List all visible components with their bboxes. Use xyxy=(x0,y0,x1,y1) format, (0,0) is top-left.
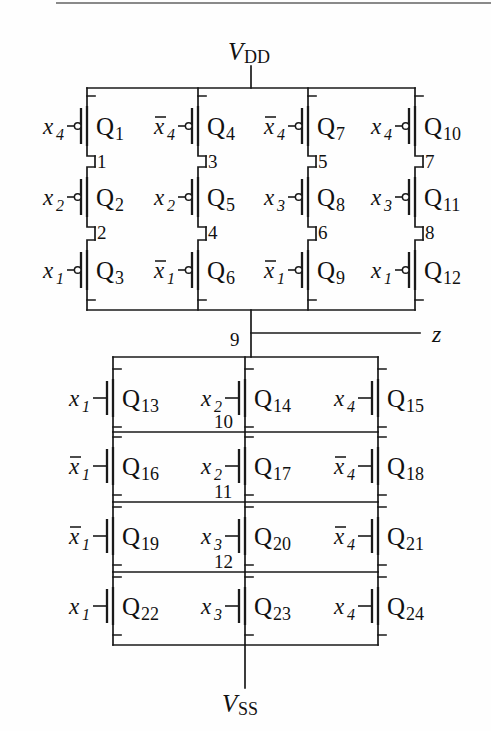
device-label-Q4: Q xyxy=(207,113,225,140)
transistor-11[interactable] xyxy=(395,167,423,227)
gate-signal-Q4: x4 xyxy=(153,114,175,143)
device-label-Q10: Q xyxy=(424,113,442,140)
signal-name: x xyxy=(200,454,212,479)
vss-label: VSS xyxy=(222,690,258,719)
signal-subscript: 1 xyxy=(384,270,392,287)
output-z-label: z xyxy=(431,321,442,347)
transistor-23[interactable] xyxy=(225,577,253,635)
signal-subscript: 4 xyxy=(167,126,175,143)
internal-node-7: 7 xyxy=(425,151,435,172)
signal-subscript: 4 xyxy=(384,126,392,143)
transistor-4[interactable] xyxy=(178,96,206,156)
channel-and-leads xyxy=(87,96,95,156)
channel-and-leads xyxy=(245,369,253,427)
pmos-bubble xyxy=(74,123,81,130)
device-label-Q16: Q xyxy=(122,453,140,480)
device-label-Q5: Q xyxy=(207,184,225,211)
channel-and-leads xyxy=(308,240,316,300)
channel-and-leads xyxy=(245,437,253,495)
gate-signal-Q1: x4 xyxy=(42,114,64,143)
gate-signal-Q11: x3 xyxy=(370,185,392,214)
gate-signal-Q18: x4 xyxy=(333,454,355,483)
device-index-Q20: 20 xyxy=(273,534,291,554)
transistor-18[interactable] xyxy=(358,437,386,495)
transistor-3[interactable] xyxy=(67,240,95,300)
device-index-Q19: 19 xyxy=(141,534,159,554)
transistor-22[interactable] xyxy=(93,577,121,635)
signal-subscript: 4 xyxy=(347,606,355,623)
transistor-5[interactable] xyxy=(178,167,206,227)
signal-name: x xyxy=(68,386,80,411)
transistor-16[interactable] xyxy=(93,437,121,495)
device-index-Q2: 2 xyxy=(115,195,124,215)
transistor-21[interactable] xyxy=(358,507,386,565)
device-label-Q8: Q xyxy=(317,184,335,211)
transistor-2[interactable] xyxy=(67,167,95,227)
signal-subscript: 1 xyxy=(277,270,285,287)
channel-and-leads xyxy=(378,437,386,495)
transistor-8[interactable] xyxy=(288,167,316,227)
gate-signal-Q19: x1 xyxy=(68,524,90,553)
internal-node-3: 3 xyxy=(208,151,218,172)
device-label-Q13: Q xyxy=(122,385,140,412)
internal-node-4: 4 xyxy=(208,222,218,243)
gate-signal-Q23: x3 xyxy=(200,594,222,623)
pmos-bubble xyxy=(402,267,409,274)
signal-name: x xyxy=(68,594,80,619)
device-label-Q24: Q xyxy=(387,593,405,620)
device-label-Q17: Q xyxy=(254,453,272,480)
transistor-10[interactable] xyxy=(395,96,423,156)
transistor-7[interactable] xyxy=(288,96,316,156)
signal-subscript: 1 xyxy=(82,606,90,623)
device-index-Q15: 15 xyxy=(406,396,424,416)
transistor-12[interactable] xyxy=(395,240,423,300)
signal-name: x xyxy=(200,524,212,549)
transistor-6[interactable] xyxy=(178,240,206,300)
device-index-Q3: 3 xyxy=(115,268,124,288)
gate-signal-Q10: x4 xyxy=(370,114,392,143)
signal-name: x xyxy=(153,185,165,210)
device-index-Q11: 11 xyxy=(443,195,460,215)
pmos-bubble xyxy=(295,194,302,201)
device-label-Q19: Q xyxy=(122,523,140,550)
vss-sub: SS xyxy=(238,699,258,719)
device-index-Q14: 14 xyxy=(273,396,291,416)
signal-subscript: 4 xyxy=(347,398,355,415)
signal-subscript: 2 xyxy=(167,197,175,214)
signal-name: x xyxy=(200,386,212,411)
channel-and-leads xyxy=(113,437,121,495)
internal-node-12: 12 xyxy=(214,551,233,572)
signal-name: x xyxy=(42,258,54,283)
device-label-Q2: Q xyxy=(96,184,114,211)
channel-and-leads xyxy=(198,240,206,300)
pmos-bubble xyxy=(185,194,192,201)
transistor-15[interactable] xyxy=(358,369,386,427)
schematic-canvas: x4Q1x2Q2x1Q312x4Q4x2Q5x1Q634x4Q7x3Q8x1Q9… xyxy=(0,0,491,731)
signal-subscript: 3 xyxy=(383,197,392,214)
channel-and-leads xyxy=(308,167,316,227)
channel-and-leads xyxy=(245,577,253,635)
signal-subscript: 1 xyxy=(56,270,64,287)
channel-and-leads xyxy=(415,167,423,227)
transistor-24[interactable] xyxy=(358,577,386,635)
pmos-bubble xyxy=(402,194,409,201)
transistor-1[interactable] xyxy=(67,96,95,156)
gate-signal-Q15: x4 xyxy=(333,386,355,415)
transistor-19[interactable] xyxy=(93,507,121,565)
signal-name: x xyxy=(42,114,54,139)
transistor-13[interactable] xyxy=(93,369,121,427)
channel-and-leads xyxy=(415,96,423,156)
pmos-bubble xyxy=(185,267,192,274)
vdd-label: VDD xyxy=(228,38,270,67)
channel-and-leads xyxy=(378,507,386,565)
device-label-Q22: Q xyxy=(122,593,140,620)
signal-name: x xyxy=(333,594,345,619)
transistor-9[interactable] xyxy=(288,240,316,300)
device-label-Q9: Q xyxy=(317,257,335,284)
channel-and-leads xyxy=(378,577,386,635)
signal-subscript: 4 xyxy=(347,466,355,483)
gate-signal-Q22: x1 xyxy=(68,594,90,623)
signal-subscript: 3 xyxy=(213,606,222,623)
gate-signal-Q24: x4 xyxy=(333,594,355,623)
gate-signal-Q6: x1 xyxy=(153,258,175,287)
